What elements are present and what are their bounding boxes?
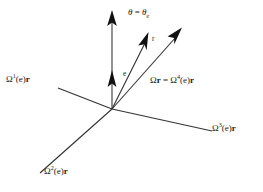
diagram-canvas — [0, 0, 263, 192]
label-omega1-e-r: Ω1(e)r — [6, 75, 30, 84]
label-omegar-lhs-prefix: Ω — [150, 75, 157, 85]
label-omega3-prefix: Ω — [212, 123, 219, 133]
rotation-axis-diagram: θ = θe e r Ω1(e)r Ω2(e)r Ω3(e)r Ωr = Ω4(… — [0, 0, 263, 192]
label-omegar-equals: = — [161, 75, 171, 85]
label-omegar-rhs-prefix: Ω — [170, 75, 177, 85]
label-omegar-middle: (e) — [180, 75, 190, 85]
label-r-text: r — [152, 34, 155, 43]
label-omega1-middle: (e) — [16, 74, 26, 84]
label-omega3-e-r: Ω3(e)r — [212, 124, 236, 133]
vector-r-shaft — [112, 42, 146, 109]
label-theta-equals: = — [132, 7, 142, 17]
label-omega1-prefix: Ω — [6, 74, 13, 84]
label-e-text: e — [123, 69, 126, 78]
label-omega2-e-r: Ω2(e)r — [44, 167, 68, 176]
label-theta-equals-theta-e: θ = θe — [128, 8, 149, 17]
label-unit-vector-e: e — [123, 70, 126, 78]
vector-omega-r-shaft — [112, 37, 176, 109]
vector-omega-r-arrowhead — [168, 28, 182, 45]
label-omega2-vector: r — [64, 166, 68, 176]
label-omega3-middle: (e) — [222, 123, 232, 133]
label-omegar-vector: r — [190, 75, 194, 85]
label-theta-subscript: e — [146, 12, 149, 19]
label-omega2-prefix: Ω — [44, 166, 51, 176]
label-omega2-middle: (e) — [54, 166, 64, 176]
label-omega-r-equals-omega4-e-r: Ωr = Ω4(e)r — [150, 76, 194, 85]
label-vector-r: r — [152, 35, 155, 43]
axis-line-omega3 — [112, 109, 212, 131]
label-omega3-vector: r — [232, 123, 236, 133]
label-omega1-vector: r — [26, 74, 30, 84]
axis-line-omega1 — [58, 88, 112, 109]
